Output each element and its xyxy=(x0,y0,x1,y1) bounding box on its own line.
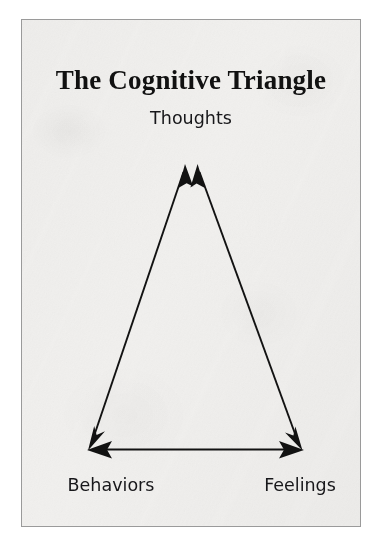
figure-page: The Cognitive Triangle Thoughts Behavior… xyxy=(0,0,385,550)
edge-feelings-thoughts-shaft xyxy=(200,172,298,441)
arrowhead-right-edge-to-thoughts xyxy=(190,164,205,188)
cognitive-triangle-diagram xyxy=(22,20,361,527)
edge-behaviors-thoughts-shaft xyxy=(93,172,184,441)
figure-frame: The Cognitive Triangle Thoughts Behavior… xyxy=(21,19,361,527)
arrowhead-left-edge-to-thoughts xyxy=(178,164,193,188)
